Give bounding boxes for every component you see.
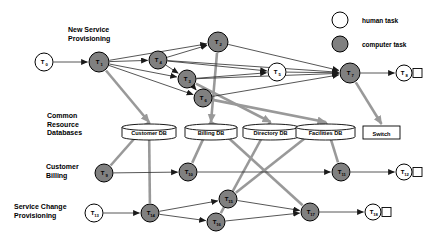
data-flow-edge [213,100,326,122]
task-node-T12: T12 [396,164,422,180]
task-label: T [401,70,405,76]
legend-human-task-icon [332,12,348,28]
task-node-T15: T15 [219,190,237,208]
task-index: 13 [94,213,99,218]
task-index: 12 [404,172,409,177]
task-node-T6: T6 [194,89,212,107]
task-label: T [41,59,45,65]
control-flow-edge [159,201,217,211]
control-flow-edge [166,65,178,73]
task-label: T [215,39,219,45]
terminal-marker [413,168,422,177]
task-index: 17 [310,212,315,217]
legend-computer-task-label: computer task [362,41,406,48]
control-flow-edge [193,86,196,90]
control-flow-edge [197,73,339,78]
label-common-resource-databases: Common Resource Databases [47,112,82,138]
data-store-billing-db: Billing DB [185,124,237,140]
data-store-label: Customer DB [131,130,167,136]
data-store-label: Switch [372,131,391,137]
task-node-T11: T11 [332,163,350,181]
control-flow-edge [159,214,205,220]
terminal-marker [382,208,391,217]
legend-human-task-label: human task [362,17,398,24]
task-node-T8: T8 [396,65,422,81]
data-store-label: Facilities DB [309,130,343,136]
data-store-facilities-db: Facilities DB [296,124,355,140]
control-flow-edge [168,61,339,73]
task-node-T10: T10 [179,163,197,181]
label-customer-billing: Customer Billing [46,163,79,180]
task-label: T [184,76,188,82]
terminal-marker [413,69,422,78]
task-node-T5: T5 [268,63,286,81]
task-index: 18 [373,212,378,217]
task-label: T [200,95,204,101]
task-label: T [347,70,351,76]
task-index: 11 [341,172,346,177]
data-store-customer-db: Customer DB [122,124,176,140]
data-flow-edge [356,82,382,124]
legend-computer-task-icon [332,36,348,52]
label-new-service-provisioning: New Service Provisioning [68,26,110,43]
task-node-T3: T3 [178,70,196,88]
task-node-T17: T17 [301,203,319,221]
task-node-T18: T18 [365,204,391,220]
task-index: 16 [216,222,221,227]
task-index: 15 [228,199,233,204]
control-flow-edge [237,201,299,211]
task-node-T7: T7 [340,63,360,83]
legend [332,12,348,52]
control-flow-edge [287,72,339,73]
data-store-label: Billing DB [198,130,225,136]
task-node-T16: T16 [207,213,225,231]
task-label: T [274,69,278,75]
data-store-label: Directory DB [253,130,287,136]
task-node-T13: T13 [85,204,103,222]
control-flow-edge [110,60,148,61]
task-label: T [101,170,105,176]
data-store-directory-db: Directory DB [243,124,298,140]
diagram-canvas: Customer DBBilling DBDirectory DBFacilit… [0,0,439,244]
task-index: 10 [188,172,193,177]
task-label: T [155,57,159,63]
task-index: 14 [150,213,155,218]
control-flow-edge [114,172,178,173]
task-node-T2: T2 [208,32,228,52]
data-flow-edge [106,71,149,123]
task-node-T9: T9 [95,164,113,182]
task-node-T14: T14 [141,204,159,222]
control-flow-edge [225,213,299,221]
task-label: T [96,59,100,65]
data-stores: Customer DBBilling DBDirectory DBFacilit… [122,124,400,140]
data-store-switch: Switch [363,126,400,139]
label-service-change-provisioning: Service Change Provisioning [14,203,67,220]
task-node-T0: T0 [35,53,53,71]
task-node-T4: T4 [149,51,167,69]
task-node-T1: T1 [89,52,109,72]
